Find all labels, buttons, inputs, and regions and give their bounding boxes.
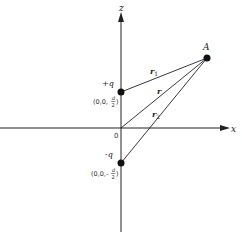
vector-r1 xyxy=(121,58,207,92)
point-A: A xyxy=(202,42,211,62)
charge-positive-coord-num: d xyxy=(112,95,115,101)
charge-positive: +q (0,0, d 2 ) xyxy=(93,79,125,108)
charge-negative-coord-den: 2 xyxy=(112,174,115,180)
point-A-dot-icon xyxy=(204,55,211,62)
charge-positive-coord: (0,0, xyxy=(93,98,108,106)
vector-r2 xyxy=(121,58,207,163)
charge-negative: -q (0,0,- d 2 ) xyxy=(91,150,125,180)
charge-negative-coord-num: d xyxy=(112,167,115,173)
vector-r xyxy=(121,58,207,128)
vector-r-label: r xyxy=(157,86,162,96)
point-A-label: A xyxy=(202,42,210,52)
charge-negative-dot-icon xyxy=(118,160,125,167)
vector-lines xyxy=(121,58,207,163)
charge-positive-label: +q xyxy=(102,79,114,88)
x-axis-label: x xyxy=(231,124,236,134)
z-axis-arrow-icon xyxy=(118,12,124,22)
z-axis-label: z xyxy=(118,3,124,13)
origin-label: 0 xyxy=(114,132,118,140)
vector-r2-label: r2 xyxy=(152,109,160,120)
charge-negative-coord: (0,0,- xyxy=(91,170,109,178)
charge-negative-coord-suffix: ) xyxy=(116,170,119,178)
x-axis-arrow-icon xyxy=(220,125,230,131)
charge-positive-coord-suffix: ) xyxy=(116,98,119,106)
vector-r1-label: r1 xyxy=(150,66,158,77)
charge-negative-label: -q xyxy=(105,150,113,159)
charge-positive-coord-den: 2 xyxy=(112,102,115,108)
charge-positive-dot-icon xyxy=(118,89,125,96)
dipole-field-diagram: z x 0 r1 r r2 A +q (0,0, d 2 ) xyxy=(0,0,242,241)
z-axis: z xyxy=(118,3,124,232)
